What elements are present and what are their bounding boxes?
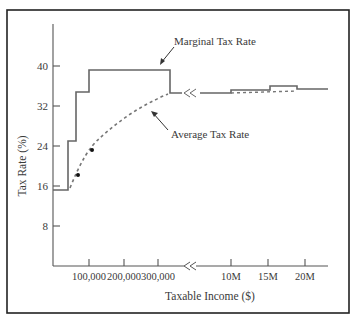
chart-frame [7, 10, 349, 313]
data-point [90, 148, 94, 152]
svg-text:300,000: 300,000 [141, 271, 175, 282]
line-break-icon [184, 89, 196, 97]
svg-text:16: 16 [37, 180, 49, 192]
svg-text:24: 24 [37, 140, 49, 152]
x-axis-title: Taxable Income ($) [165, 290, 255, 303]
average-tax-rate-line-right [231, 91, 297, 93]
marginal-tax-rate-label: Marginal Tax Rate [174, 35, 256, 47]
tax-rate-chart: Marginal Tax Rate Average Tax Rate 40 32… [0, 0, 354, 321]
svg-text:200,000: 200,000 [107, 271, 141, 282]
x-tick-labels: 100,000 200,000 300,000 10M 15M 20M [72, 271, 316, 282]
svg-text:15M: 15M [258, 271, 279, 282]
y-tick-labels: 40 32 24 16 8 [37, 60, 49, 232]
average-tax-rate-label: Average Tax Rate [171, 128, 249, 140]
svg-text:40: 40 [37, 60, 49, 72]
svg-text:10M: 10M [221, 271, 242, 282]
x-axis-break-icon [184, 262, 196, 270]
data-point [76, 173, 80, 177]
marginal-tax-rate-line [53, 70, 182, 190]
arrowhead-icon [151, 111, 158, 117]
y-axis-title: Tax Rate (%) [16, 135, 29, 196]
svg-text:8: 8 [43, 220, 49, 232]
average-tax-rate-line [70, 94, 168, 188]
axes [53, 24, 328, 266]
svg-text:20M: 20M [295, 271, 316, 282]
svg-text:32: 32 [37, 100, 48, 112]
marginal-tax-rate-line-right [200, 86, 328, 93]
svg-text:100,000: 100,000 [72, 271, 106, 282]
